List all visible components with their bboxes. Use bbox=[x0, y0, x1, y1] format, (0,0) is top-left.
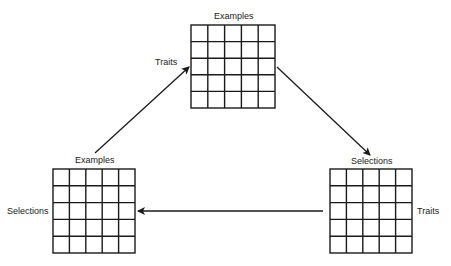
top-grid-label-examples: Examples bbox=[214, 12, 254, 21]
grid-bottom-left bbox=[53, 169, 135, 253]
bottom-left-grid-label-examples: Examples bbox=[75, 156, 115, 165]
diagram-graphics bbox=[0, 0, 451, 266]
grid-top bbox=[191, 25, 275, 108]
cycle-diagram: Examples Traits Selections Traits Exampl… bbox=[0, 0, 451, 266]
arrow-bottom-left-to-top bbox=[95, 67, 189, 153]
bottom-right-grid-label-traits: Traits bbox=[417, 207, 439, 216]
bottom-left-grid-label-selections: Selections bbox=[7, 207, 49, 216]
grid-bottom-right bbox=[330, 169, 412, 253]
top-grid-label-traits: Traits bbox=[155, 58, 177, 67]
arrow-top-to-bottom-right bbox=[277, 67, 370, 155]
bottom-right-grid-label-selections: Selections bbox=[351, 157, 393, 166]
